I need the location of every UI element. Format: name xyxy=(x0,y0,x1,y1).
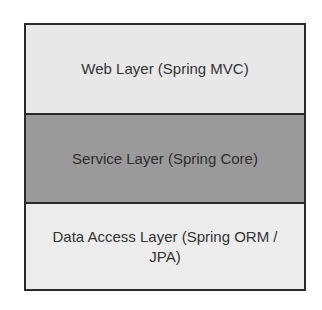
layer-stack: Web Layer (Spring MVC) Service Layer (Sp… xyxy=(24,23,306,291)
web-layer-label: Web Layer (Spring MVC) xyxy=(81,59,248,79)
data-access-layer: Data Access Layer (Spring ORM / JPA) xyxy=(26,202,304,289)
service-layer: Service Layer (Spring Core) xyxy=(26,113,304,202)
web-layer: Web Layer (Spring MVC) xyxy=(26,25,304,113)
service-layer-label: Service Layer (Spring Core) xyxy=(72,149,258,169)
data-access-layer-label: Data Access Layer (Spring ORM / JPA) xyxy=(40,227,290,267)
